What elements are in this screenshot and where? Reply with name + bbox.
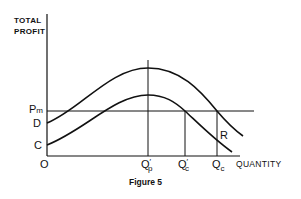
d-label: D bbox=[33, 118, 41, 129]
qp-sub: p bbox=[148, 164, 152, 173]
qc-main: Q bbox=[212, 158, 221, 170]
origin-label: O bbox=[40, 159, 49, 170]
x-axis-label: QUANTITY bbox=[236, 160, 281, 169]
qcp-sub: c bbox=[185, 164, 189, 173]
qp-prime-label: Q′p bbox=[141, 159, 156, 170]
region-r-label: R bbox=[220, 130, 228, 141]
pm-sub: m bbox=[36, 106, 43, 115]
lower-profit-curve bbox=[47, 95, 232, 152]
y-axis-label-total: TOTAL bbox=[14, 17, 41, 25]
y-axis-label-profit: PROFIT bbox=[14, 28, 45, 36]
upper-profit-curve bbox=[47, 68, 243, 136]
c-label: C bbox=[34, 140, 42, 151]
figure-caption: Figure 5 bbox=[129, 178, 162, 187]
qc-label: Qc bbox=[212, 159, 225, 170]
qc-sub: c bbox=[221, 164, 225, 173]
qc-prime-label: Q′c bbox=[178, 159, 192, 170]
pm-label: Pm bbox=[29, 104, 43, 115]
